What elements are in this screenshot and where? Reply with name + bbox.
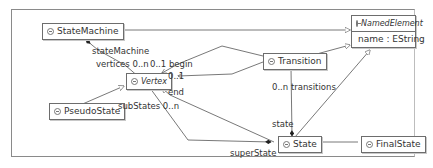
class-name: StateMachine <box>57 25 119 38</box>
class-namedelement[interactable]: NamedElement name : EString <box>351 15 416 48</box>
label-statemachine-role: stateMachine <box>92 46 149 56</box>
class-name: State <box>293 138 317 151</box>
class-name: NamedElement <box>361 17 423 30</box>
class-name: Transition <box>278 55 322 68</box>
class-name: Vertex <box>141 75 167 88</box>
class-statemachine[interactable]: StateMachine <box>42 23 124 40</box>
class-icon <box>356 20 358 27</box>
class-icon <box>131 78 138 85</box>
attribute-name[interactable]: name : EString <box>358 33 425 46</box>
class-name: FinalState <box>376 138 421 151</box>
class-icon <box>47 28 54 35</box>
label-substates: subStates 0..n <box>118 101 179 111</box>
label-transitions: 0..n transitions <box>272 82 336 92</box>
class-icon <box>268 58 275 65</box>
label-begin-target: 0..1 <box>168 71 184 81</box>
label-begin: 0..1 begin <box>150 59 193 69</box>
class-state[interactable]: State <box>278 136 322 153</box>
label-end: end <box>168 87 184 97</box>
class-icon <box>283 141 290 148</box>
label-state-role: state <box>272 119 294 129</box>
label-vertices: vertices 0..n <box>96 59 149 69</box>
class-finalstate[interactable]: FinalState <box>361 136 426 153</box>
class-transition[interactable]: Transition <box>263 53 327 70</box>
label-superstate: superState <box>230 148 276 158</box>
class-pseudostate[interactable]: PseudoState <box>49 103 125 120</box>
class-icon <box>366 141 373 148</box>
class-icon <box>54 108 61 115</box>
class-name: PseudoState <box>64 105 120 118</box>
class-vertex[interactable]: Vertex <box>126 73 172 90</box>
